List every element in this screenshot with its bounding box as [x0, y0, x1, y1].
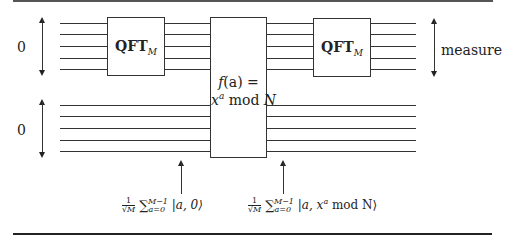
oracle-line-1: f(a) = [211, 74, 266, 90]
top-rule [13, 0, 493, 2]
register-1-init-label: 0 [17, 40, 26, 54]
qft-gate-1-label: QFTM [108, 38, 164, 57]
state-1-formula: 1√M ∑a=0M−1 |a, 0⟩ [122, 197, 203, 214]
qft-gate-1: QFTM [107, 17, 165, 76]
qft-gate-2-label: QFTM [314, 39, 370, 58]
bottom-rule [13, 233, 492, 235]
qft-gate-2: QFTM [313, 18, 371, 77]
register-2-init-label: 0 [17, 123, 26, 137]
oracle-line-2: xa mod N [211, 91, 266, 108]
measure-label: measure [441, 43, 502, 57]
state-2-formula: 1√M ∑a=0M−1 |a, xa mod N⟩ [248, 197, 377, 214]
oracle-gate: f(a) = xa mod N [210, 17, 267, 158]
